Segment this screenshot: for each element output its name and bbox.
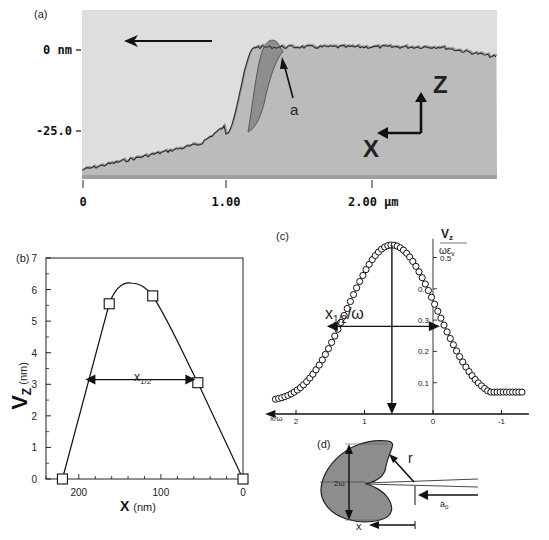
z-axis-label: Z (433, 71, 448, 98)
x-label: x (356, 520, 362, 532)
panel-c: (c) 210-10.10.20.30.40.5 x1/2/ω Vz ωεv x… (265, 227, 529, 426)
ylabel-den-sub: v (451, 250, 455, 257)
height-label: 2ω (334, 479, 345, 488)
y-axis-title: VZ(nm) (7, 362, 34, 410)
y-tick-label: 2 (31, 411, 37, 422)
data-point (357, 278, 363, 284)
panel-a: (a) 0 nm -25.0 0 1.00 2.00 μm a (34, 8, 497, 209)
y-tick-label: 0.2 (418, 347, 430, 356)
data-points (272, 242, 525, 402)
crack-upper (365, 479, 478, 483)
x-tick-label: 2 (294, 417, 299, 426)
data-point (354, 285, 360, 291)
x-tick-label: 0 (240, 487, 246, 498)
x-tick-label-2: 2.00 μm (348, 195, 399, 209)
x-axis-title: X(nm) (120, 498, 156, 514)
radius-arrowhead (389, 454, 398, 463)
y-tick-label: 5 (31, 316, 37, 327)
data-point (238, 474, 248, 484)
data-point (450, 342, 456, 348)
xlabel-unit: (nm) (133, 501, 156, 513)
y-tick-label: 6 (31, 285, 37, 296)
x-axis-title: x/ω (270, 414, 282, 423)
crack-length-label: a0 (440, 499, 449, 510)
data-point (425, 287, 431, 293)
x-half-subscript: 1/2 (140, 377, 152, 386)
panel-b-label: (b) (16, 252, 29, 264)
data-point (444, 329, 450, 335)
data-point (432, 301, 438, 307)
y-tick-label: 1 (31, 442, 37, 453)
panel-a-label: (a) (34, 8, 47, 20)
ylabel-sub: Z (20, 388, 34, 395)
plot-frame (46, 258, 243, 479)
y-tick-label-25: -25.0 (36, 124, 72, 138)
data-point (360, 272, 366, 278)
data-points (57, 291, 248, 484)
data-point (322, 351, 328, 357)
data-point (428, 294, 434, 300)
crack-lower (365, 484, 478, 487)
ylabel-denominator: ωεv (439, 245, 455, 257)
y-tick-label: 7 (31, 253, 37, 264)
ylabel-unit: (nm) (17, 362, 29, 385)
panel-b: (b) 01234567 2001000 x1/2 VZ(nm) X(nm) (7, 252, 248, 514)
x-tick-label-0: 0 (79, 195, 86, 209)
annotation-a-label: a (290, 101, 299, 118)
panel-d: (d) r a0 2ω x (317, 438, 478, 532)
x-tick-label: 0 (431, 417, 436, 426)
x-axis: 2001000 (46, 474, 246, 498)
radius-label: r (408, 450, 413, 466)
panel-d-label: (d) (317, 438, 330, 450)
y-tick-label: 4 (31, 348, 37, 359)
data-point (422, 281, 428, 287)
data-point (447, 335, 453, 341)
crack-tip-zone (321, 441, 393, 522)
x-tick-label-1: 1.00 (212, 195, 241, 209)
ylabel-main: V (7, 395, 32, 410)
data-point (438, 315, 444, 321)
y-tick-label: 0.3 (418, 316, 430, 325)
data-point (419, 275, 425, 281)
afm-baseline (82, 175, 497, 179)
x-axis-label: X (363, 135, 379, 162)
data-point (519, 389, 525, 395)
ylabel-num: V (441, 227, 449, 241)
svg-text:VZ(nm): VZ(nm) (7, 362, 34, 410)
ylabel-num-sub: z (449, 233, 453, 242)
data-point (332, 333, 338, 339)
annotations (327, 245, 440, 414)
data-point (325, 346, 331, 352)
y-tick-label-0nm: 0 nm (43, 43, 72, 57)
panel-c-label: (c) (276, 230, 289, 242)
x-tick-label: 100 (153, 487, 170, 498)
axes: 210-10.10.20.30.40.5 (265, 239, 529, 426)
x-tick-label: 1 (362, 417, 367, 426)
y-tick-label: 0 (31, 474, 37, 485)
x-tick-label: -1 (498, 417, 506, 426)
data-point (435, 308, 441, 314)
data-point (104, 299, 114, 309)
y-axis: 01234567 (31, 253, 51, 485)
a0-sub: 0 (445, 504, 449, 510)
a0-arrowhead (418, 490, 428, 500)
data-point (441, 322, 447, 328)
center-arrowhead (387, 403, 397, 414)
figure: (a) 0 nm -25.0 0 1.00 2.00 μm a (0, 0, 549, 540)
xh-text: x (325, 305, 333, 322)
ylabel-numerator: Vz (441, 227, 453, 242)
data-point (416, 269, 422, 275)
x-half-label: x1/2 (134, 370, 152, 386)
data-point (350, 292, 356, 298)
data-point (148, 291, 158, 301)
data-point (57, 474, 67, 484)
half-width-right-head (429, 321, 440, 331)
xh-sub: 1/2 (333, 314, 347, 325)
data-point (453, 348, 459, 354)
xlabel-main: X (120, 498, 130, 514)
xh-suffix: /ω (347, 305, 364, 322)
data-point (347, 298, 353, 304)
data-point (329, 339, 335, 345)
y-tick-label: 0.1 (418, 379, 430, 388)
ylabel-den: ωε (439, 245, 452, 256)
